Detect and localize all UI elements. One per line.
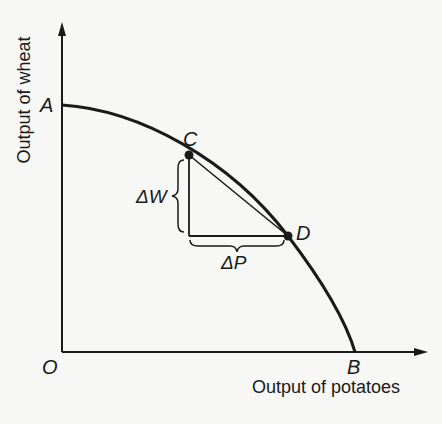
delta-p-brace-icon bbox=[190, 240, 284, 252]
point-c-marker bbox=[185, 151, 194, 160]
delta-p-label: ΔP bbox=[221, 252, 246, 274]
point-d-marker bbox=[284, 232, 293, 241]
x-axis-label: Output of potatoes bbox=[252, 377, 400, 398]
ppc-diagram: Output of wheat A C D B O ΔW ΔP Output o… bbox=[0, 0, 442, 424]
diagram-canvas bbox=[0, 0, 442, 424]
point-c-label: C bbox=[183, 128, 197, 151]
delta-w-label: ΔW bbox=[136, 186, 167, 208]
point-b-label: B bbox=[347, 356, 360, 379]
origin-label: O bbox=[42, 356, 58, 379]
point-a-label: A bbox=[40, 94, 53, 117]
x-axis-arrow-icon bbox=[414, 348, 428, 356]
y-axis-arrow-icon bbox=[58, 22, 66, 36]
chord-cd bbox=[189, 155, 288, 236]
point-d-label: D bbox=[296, 222, 310, 245]
ppc-curve bbox=[62, 105, 355, 352]
y-axis-label: Output of wheat bbox=[14, 36, 35, 163]
delta-w-brace-icon bbox=[172, 160, 184, 232]
